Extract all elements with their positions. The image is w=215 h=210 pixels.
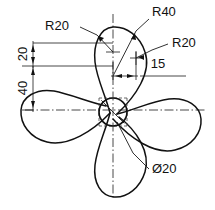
blade-left — [21, 90, 110, 143]
dimension-label-40: 40 — [15, 81, 30, 95]
drawing-sheet: 20 40 15 R20 — [0, 0, 215, 210]
dimension-label-15: 15 — [151, 56, 165, 71]
diameter-label-d20: Ø20 — [152, 161, 177, 176]
arrowhead-20-up — [31, 45, 35, 52]
radius-r20-left: R20 — [45, 18, 120, 52]
arrowhead-40-down — [31, 101, 35, 108]
arrowhead-15-right — [127, 74, 134, 78]
leader-line-r40-top — [136, 19, 149, 31]
arrowhead-20-down — [31, 57, 35, 64]
arrowhead-15-left — [115, 74, 122, 78]
radius-label-r20-left: R20 — [45, 18, 69, 33]
leader-line-r20-left — [80, 27, 97, 35]
radius-label-r40-top: R40 — [152, 4, 176, 19]
fan-impeller-drawing: 20 40 15 R20 — [0, 0, 215, 210]
dimension-label-20: 20 — [15, 47, 30, 61]
radius-r40-top: R40 — [113, 4, 176, 76]
radius-label-r20-right: R20 — [172, 35, 196, 50]
leader-line-r20-right — [152, 44, 168, 50]
arrowhead-40-up — [31, 68, 35, 75]
dimension-15: 15 — [111, 52, 186, 80]
dimension-40: 40 — [15, 66, 35, 112]
dimension-20: 20 — [15, 41, 113, 68]
diameter-d20: Ø20 — [117, 122, 177, 176]
